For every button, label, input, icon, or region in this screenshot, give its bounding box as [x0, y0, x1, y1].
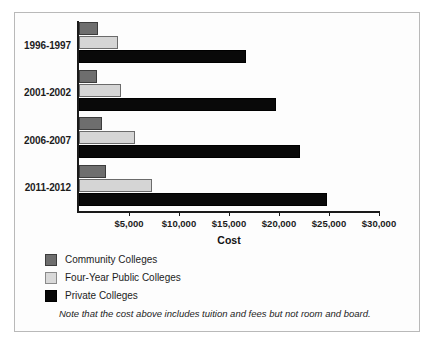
bar[interactable] — [79, 70, 97, 83]
bar[interactable] — [79, 50, 246, 63]
x-axis-tick — [229, 211, 230, 216]
legend-item[interactable]: Four-Year Public Colleges — [45, 269, 181, 286]
bar[interactable] — [79, 36, 118, 49]
chart-frame: 1996-19972001-20022006-20072011-2012 $5,… — [14, 12, 420, 332]
category-label: 2006-2007 — [24, 134, 71, 145]
bar[interactable] — [79, 22, 98, 35]
bar[interactable] — [79, 131, 135, 144]
x-axis-tick — [329, 211, 330, 216]
x-axis-title: Cost — [79, 234, 379, 246]
bar-group: 2011-2012 — [79, 164, 379, 212]
bar-row — [79, 98, 276, 111]
bar[interactable] — [79, 84, 121, 97]
bar-row — [79, 131, 135, 144]
plot-area: 1996-19972001-20022006-20072011-2012 $5,… — [79, 21, 379, 211]
legend-label: Community Colleges — [65, 254, 157, 265]
legend-swatch-icon — [45, 272, 57, 284]
x-axis-tick-label: $5,000 — [114, 218, 143, 229]
x-axis-tick — [279, 211, 280, 216]
bar[interactable] — [79, 98, 276, 111]
legend-swatch-icon — [45, 254, 57, 266]
legend-swatch-icon — [45, 290, 57, 302]
bar-row — [79, 145, 300, 158]
x-axis-tick-label: $25,000 — [312, 218, 346, 229]
bar-group: 2001-2002 — [79, 69, 379, 117]
bar[interactable] — [79, 117, 102, 130]
bar[interactable] — [79, 193, 327, 206]
x-axis-tick-label: $30,000 — [362, 218, 396, 229]
bar-row — [79, 36, 118, 49]
bar-group: 2006-2007 — [79, 116, 379, 164]
x-axis-line — [77, 211, 379, 213]
bar[interactable] — [79, 179, 152, 192]
bar-row — [79, 165, 106, 178]
bar-row — [79, 84, 121, 97]
category-label: 2001-2002 — [24, 87, 71, 98]
bar-row — [79, 70, 97, 83]
chart-note: Note that the cost above includes tuitio… — [59, 308, 371, 319]
category-label: 1996-1997 — [24, 39, 71, 50]
x-axis-tick — [179, 211, 180, 216]
bar[interactable] — [79, 145, 300, 158]
x-axis-tick — [379, 211, 380, 216]
x-axis-tick — [129, 211, 130, 216]
x-axis-tick-label: $20,000 — [262, 218, 296, 229]
bar-row — [79, 22, 98, 35]
x-axis-tick-label: $15,000 — [212, 218, 246, 229]
bar-row — [79, 179, 152, 192]
legend-label: Four-Year Public Colleges — [65, 272, 181, 283]
bar[interactable] — [79, 165, 106, 178]
x-axis-tick-label: $10,000 — [162, 218, 196, 229]
legend-item[interactable]: Private Colleges — [45, 287, 181, 304]
category-label: 2011-2012 — [25, 182, 71, 193]
legend-item[interactable]: Community Colleges — [45, 251, 181, 268]
bar-row — [79, 50, 246, 63]
bar-group: 1996-1997 — [79, 21, 379, 69]
legend-label: Private Colleges — [65, 290, 138, 301]
bar-row — [79, 193, 327, 206]
chart-legend: Community CollegesFour-Year Public Colle… — [45, 251, 181, 305]
bar-row — [79, 117, 102, 130]
